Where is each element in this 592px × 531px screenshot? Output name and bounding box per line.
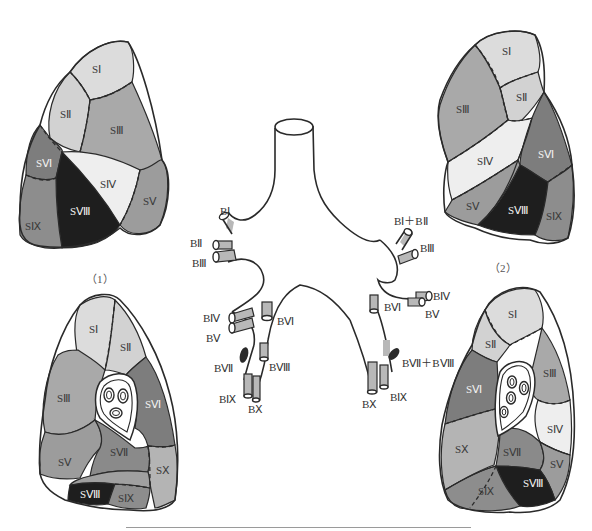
segment-label: SⅡ bbox=[485, 338, 496, 350]
segment-label: SⅤ bbox=[58, 456, 72, 468]
segment-label: SⅩ bbox=[156, 464, 170, 476]
bronchus-b7-8 bbox=[383, 340, 402, 362]
bronchus-b10-left bbox=[368, 362, 378, 394]
panel-caption-1: （1） bbox=[86, 273, 114, 285]
segment-label: SⅧ bbox=[508, 204, 528, 216]
bronchus-label-b9-left: BⅨ bbox=[390, 391, 407, 403]
segment-label: SⅠ bbox=[92, 63, 101, 75]
bronchus-label-b5: BⅤ bbox=[206, 332, 221, 344]
segment-label: SⅢ bbox=[543, 367, 557, 379]
segment-label: SⅠ bbox=[89, 323, 98, 335]
bronchus-label-b8: BⅧ bbox=[269, 361, 290, 373]
segment-label: SⅣ bbox=[100, 178, 117, 190]
segment-s9 bbox=[19, 175, 62, 248]
lung-diagram-bottom-left: SⅠ SⅡ SⅢ SⅥ SⅤ SⅦ SⅩ SⅧ SⅨ bbox=[39, 295, 177, 511]
segment-label: SⅩ bbox=[455, 443, 469, 455]
segment-label: SⅦ bbox=[110, 446, 128, 458]
segment-label: SⅥ bbox=[36, 157, 52, 169]
bronchus-b3 bbox=[213, 250, 236, 262]
bronchus-b3-left bbox=[398, 250, 418, 265]
bronchus-b6-left bbox=[370, 295, 378, 313]
segment-label: SⅡ bbox=[120, 341, 131, 353]
bronchus-b1-2 bbox=[396, 227, 413, 250]
segment-label: SⅢ bbox=[456, 103, 470, 115]
segment-label: SⅣ bbox=[477, 155, 494, 167]
segment-label: SⅨ bbox=[25, 220, 41, 232]
divider-rule bbox=[126, 527, 471, 528]
lung-diagram-top-right: SⅠ SⅡ SⅢ SⅣ SⅥ SⅤ SⅧ SⅨ （2） bbox=[438, 31, 574, 274]
segment-label: SⅥ bbox=[145, 398, 161, 410]
bronchus-label-b10: BⅩ bbox=[248, 403, 263, 415]
segment-label: SⅤ bbox=[143, 195, 157, 207]
segment-label: SⅡ bbox=[60, 108, 71, 120]
segment-label: SⅧ bbox=[523, 477, 543, 489]
segment-label: SⅠ bbox=[502, 45, 511, 57]
bronchus-label-b6-left: BⅥ bbox=[384, 301, 401, 313]
bronchus-label-b7: BⅦ bbox=[214, 362, 233, 374]
segment-s10 bbox=[148, 445, 177, 508]
segment-label: SⅢ bbox=[57, 392, 71, 404]
bronchus-label-b6: BⅥ bbox=[277, 315, 294, 327]
segment-label: SⅨ bbox=[546, 210, 562, 222]
bronchus-label-b9: BⅨ bbox=[219, 393, 236, 405]
bronchus-label-b4: BⅣ bbox=[203, 312, 221, 324]
segment-label: SⅦ bbox=[503, 446, 521, 458]
segment-label: SⅥ bbox=[538, 148, 554, 160]
lung-diagram-top-left: SⅠ SⅡ SⅢ SⅥ SⅣ SⅤ SⅧ SⅨ （1） bbox=[19, 41, 168, 285]
bronchus-b9 bbox=[244, 374, 252, 398]
bronchial-tree: BⅠ BⅡ BⅢ BⅣ BⅤ BⅥ BⅦ BⅧ BⅨ BⅩ BⅠ＋BⅡ BⅢ B… bbox=[190, 119, 454, 415]
bronchus-b7 bbox=[238, 346, 250, 364]
segment-label: SⅨ bbox=[478, 485, 494, 497]
bronchus-label-b5-left: BⅤ bbox=[425, 308, 440, 320]
bronchus-label-b7-8: BⅦ＋BⅧ bbox=[402, 357, 454, 369]
bronchus-b9-left bbox=[380, 365, 388, 389]
segment-label: SⅥ bbox=[466, 383, 482, 395]
lung-diagram-bottom-right: SⅠ SⅡ SⅢ SⅥ SⅣ SⅩ SⅦ SⅤ SⅧ SⅨ bbox=[440, 288, 575, 513]
segment-label: SⅨ bbox=[118, 492, 134, 504]
bronchus-label-b2: BⅡ bbox=[190, 237, 202, 249]
bronchus-label-b1-2: BⅠ＋BⅡ bbox=[394, 215, 428, 227]
bronchus-b5-left bbox=[408, 298, 425, 306]
bronchus-label-b3-left: BⅢ bbox=[420, 242, 435, 254]
bronchus-b2 bbox=[213, 241, 232, 250]
segment-label: SⅤ bbox=[466, 200, 480, 212]
bronchus-label-b1: BⅠ bbox=[220, 205, 230, 217]
bronchus-b6 bbox=[262, 302, 272, 321]
segment-label: SⅠ bbox=[508, 308, 517, 320]
segment-label: SⅧ bbox=[80, 488, 100, 500]
bronchus-label-b10-left: BⅩ bbox=[362, 398, 377, 410]
bronchus-b10 bbox=[253, 376, 261, 402]
segment-label: SⅡ bbox=[516, 91, 527, 103]
bronchus-label-b3: BⅢ bbox=[192, 257, 207, 269]
segment-label: SⅣ bbox=[547, 423, 564, 435]
bronchus-label-b4-left: BⅣ bbox=[433, 290, 451, 302]
trachea bbox=[228, 128, 275, 220]
segment-label: SⅧ bbox=[70, 205, 90, 217]
bronchus-b8 bbox=[260, 343, 268, 361]
segment-s3 bbox=[531, 328, 570, 404]
segment-label: SⅤ bbox=[550, 458, 564, 470]
segment-label: SⅢ bbox=[110, 124, 124, 136]
panel-caption-2: （2） bbox=[489, 262, 517, 274]
